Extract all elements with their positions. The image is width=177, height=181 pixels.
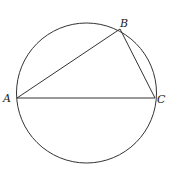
- geometry-diagram: A B C: [0, 0, 177, 181]
- circumcircle: [17, 23, 157, 163]
- segment-ab: [17, 29, 120, 98]
- label-c: C: [157, 93, 166, 106]
- label-b: B: [119, 17, 128, 30]
- label-a: A: [2, 92, 11, 105]
